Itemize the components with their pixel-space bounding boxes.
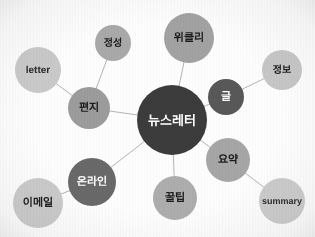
node-summary[interactable]: summary (259, 178, 305, 224)
center-node-circle-newsletter[interactable] (137, 85, 207, 155)
node-circle-yoyak[interactable] (206, 138, 250, 182)
mind-map-canvas: 편지letter정성위클리글정보요약summary꿀팁온라인이메일뉴스레터 (0, 0, 315, 237)
node-circle-jeongbo[interactable] (262, 50, 302, 90)
node-circle-pyeonji[interactable] (68, 87, 110, 129)
node-pyeonji[interactable]: 편지 (68, 87, 110, 129)
node-weekly[interactable]: 위클리 (164, 13, 214, 63)
node-geul[interactable]: 글 (208, 79, 244, 115)
mind-map-diagram: 편지letter정성위클리글정보요약summary꿀팁온라인이메일뉴스레터 (0, 0, 315, 237)
node-circle-letter[interactable] (15, 47, 61, 93)
edge-geul-jeongbo (240, 78, 265, 90)
node-circle-kkultip[interactable] (153, 176, 197, 220)
edge-center-kkultip (173, 153, 174, 178)
edge-center-weekly (179, 61, 185, 88)
node-jeongbo[interactable]: 정보 (262, 50, 302, 90)
edge-center-pyeonji (108, 111, 140, 116)
node-circle-email[interactable] (13, 178, 63, 228)
edge-pyeonji-letter (55, 83, 74, 97)
edge-center-online (109, 140, 146, 168)
node-circle-weekly[interactable] (164, 13, 214, 63)
node-circle-geul[interactable] (208, 79, 244, 115)
node-jeongseong[interactable]: 정성 (95, 25, 131, 61)
node-kkultip[interactable]: 꿀팁 (153, 176, 197, 220)
node-circle-summary[interactable] (259, 178, 305, 224)
edge-yoyak-summary (244, 172, 265, 188)
node-layer: 편지letter정성위클리글정보요약summary꿀팁온라인이메일뉴스레터 (13, 13, 305, 228)
edge-center-yoyak (199, 139, 212, 148)
node-letter[interactable]: letter (15, 47, 61, 93)
node-online[interactable]: 온라인 (68, 158, 116, 206)
center-node-newsletter[interactable]: 뉴스레터 (137, 85, 207, 155)
node-circle-jeongseong[interactable] (95, 25, 131, 61)
node-circle-online[interactable] (68, 158, 116, 206)
node-yoyak[interactable]: 요약 (206, 138, 250, 182)
node-email[interactable]: 이메일 (13, 178, 63, 228)
edge-pyeonji-jeongseong (96, 58, 108, 90)
